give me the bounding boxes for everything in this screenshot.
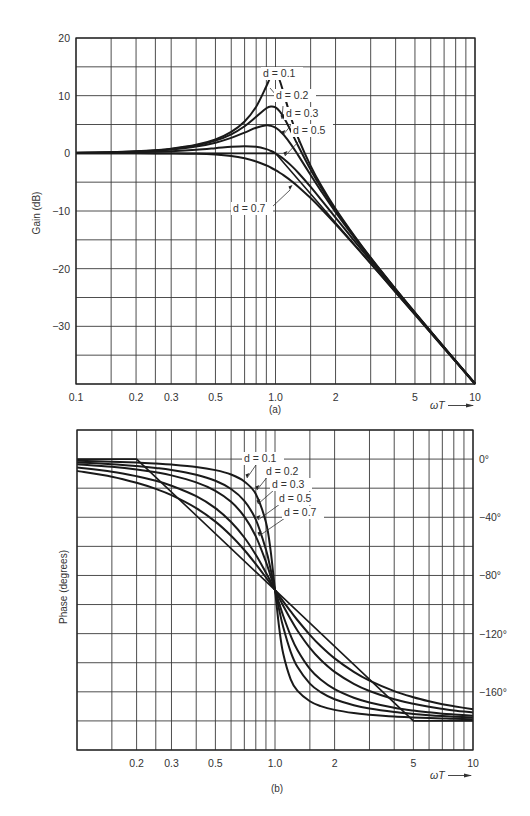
gain-x-tick-label: 0.1 — [69, 391, 84, 403]
phase-x-tick-label: 2 — [332, 757, 338, 769]
gain-y-axis-label: Gain (dB) — [31, 192, 42, 235]
phase-legend-label: d = 0.7 — [284, 506, 317, 518]
phase-y-tick-label: −40° — [479, 511, 501, 523]
gain-x-tick-label: 0.3 — [164, 391, 179, 403]
gain-x-tick-label: 1.0 — [268, 391, 283, 403]
gain-legend: d = 0.1d = 0.2d = 0.3d = 0.5d = 0.7 — [231, 67, 333, 215]
gain-y-tick-label: −30 — [52, 320, 70, 332]
gain-x-tick-labels: 0.10.20.30.51.02510 — [69, 391, 481, 403]
gain-x-axis-label: ωT — [430, 399, 446, 411]
phase-y-tick-label: 0° — [479, 453, 489, 465]
phase-x-tick-labels: 0.20.30.51.02510 — [129, 757, 479, 769]
phase-plot: 0.20.30.51.02510 0°−40°−80°−120°−160° d … — [58, 430, 507, 794]
phase-x-tick-label: 1.0 — [268, 757, 283, 769]
gain-y-tick-label: −10 — [52, 205, 70, 217]
gain-plot: 0.10.20.30.51.02510 20100−10−20−30 d = 0… — [31, 32, 481, 415]
gain-x-axis-arrow-icon — [448, 404, 474, 408]
phase-y-tick-label: −160° — [479, 686, 507, 698]
gain-x-tick-label: 0.2 — [129, 391, 144, 403]
phase-y-tick-label: −80° — [479, 569, 501, 581]
phase-legend-label: d = 0.5 — [279, 492, 312, 504]
gain-caption: (a) — [269, 404, 281, 415]
gain-legend-label: d = 0.2 — [276, 89, 309, 101]
phase-legend: d = 0.1d = 0.2d = 0.3d = 0.5d = 0.7 — [242, 452, 324, 536]
gain-x-tick-label: 5 — [412, 391, 418, 403]
phase-legend-leader-line — [259, 518, 285, 536]
gain-y-tick-label: 0 — [64, 147, 70, 159]
gain-x-tick-label: 2 — [333, 391, 339, 403]
phase-legend-label: d = 0.2 — [266, 465, 299, 477]
phase-x-tick-label: 0.2 — [129, 757, 144, 769]
phase-x-axis-arrow-icon — [448, 774, 472, 778]
gain-x-tick-label: 0.5 — [208, 391, 223, 403]
phase-y-tick-labels: 0°−40°−80°−120°−160° — [479, 453, 507, 698]
phase-x-axis-label: ωT — [430, 769, 446, 781]
gain-legend-label: d = 0.3 — [286, 107, 319, 119]
phase-y-tick-label: −120° — [479, 628, 507, 640]
gain-legend-label: d = 0.7 — [233, 202, 266, 214]
phase-caption: (b) — [271, 783, 283, 794]
phase-x-tick-label: 0.3 — [164, 757, 179, 769]
gain-y-tick-label: 10 — [58, 90, 70, 102]
bode-plot-figure: 0.10.20.30.51.02510 20100−10−20−30 d = 0… — [0, 0, 530, 816]
gain-legend-arrowhead-icon — [289, 185, 293, 190]
phase-y-axis-label: Phase (degrees) — [58, 550, 69, 624]
phase-x-tick-label: 10 — [467, 757, 479, 769]
phase-legend-label: d = 0.3 — [272, 478, 305, 490]
gain-y-tick-labels: 20100−10−20−30 — [52, 32, 70, 332]
phase-x-tick-label: 0.5 — [208, 757, 223, 769]
gain-y-tick-label: −20 — [52, 263, 70, 275]
gain-legend-leader-line — [272, 190, 290, 207]
gain-x-tick-label: 10 — [469, 391, 481, 403]
phase-x-tick-label: 5 — [410, 757, 416, 769]
phase-legend-label: d = 0.1 — [244, 452, 277, 464]
gain-legend-label: d = 0.5 — [293, 124, 326, 136]
gain-y-tick-label: 20 — [58, 32, 70, 44]
gain-legend-label: d = 0.1 — [263, 67, 296, 79]
